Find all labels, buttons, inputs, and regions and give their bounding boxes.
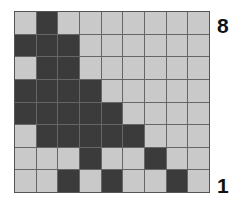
board-cell[interactable] [15, 148, 36, 170]
board-cell[interactable] [58, 12, 79, 34]
board-cell[interactable] [102, 103, 123, 125]
board-cell[interactable] [145, 148, 166, 170]
board-cell[interactable] [145, 170, 166, 192]
board-cell[interactable] [58, 80, 79, 102]
board-cell[interactable] [188, 12, 209, 34]
board-cell[interactable] [102, 170, 123, 192]
board-cell[interactable] [188, 57, 209, 79]
board-cell[interactable] [102, 57, 123, 79]
board-cell[interactable] [123, 170, 144, 192]
board-cell[interactable] [167, 103, 188, 125]
board-cell[interactable] [80, 170, 101, 192]
board-cell[interactable] [188, 35, 209, 57]
board-cell[interactable] [102, 148, 123, 170]
board-cell[interactable] [145, 57, 166, 79]
board-cell[interactable] [167, 148, 188, 170]
board-cell[interactable] [80, 103, 101, 125]
board-cell[interactable] [58, 125, 79, 147]
board-cell[interactable] [102, 35, 123, 57]
board-cell[interactable] [80, 80, 101, 102]
board-cell[interactable] [167, 12, 188, 34]
board-cell[interactable] [188, 80, 209, 102]
board-cell[interactable] [15, 80, 36, 102]
row-label-bottom: 1 [217, 175, 229, 196]
board-cell[interactable] [123, 35, 144, 57]
board-cell[interactable] [37, 103, 58, 125]
board-cell[interactable] [15, 103, 36, 125]
board-cell[interactable] [37, 170, 58, 192]
board-cell[interactable] [123, 103, 144, 125]
row-label-top: 8 [217, 15, 229, 36]
board-cell[interactable] [37, 125, 58, 147]
board-cell[interactable] [15, 12, 36, 34]
board-cell[interactable] [58, 35, 79, 57]
board-cell[interactable] [145, 12, 166, 34]
game-board [14, 11, 210, 193]
board-cell[interactable] [37, 148, 58, 170]
board-cell[interactable] [15, 170, 36, 192]
board-cell[interactable] [188, 148, 209, 170]
board-cell[interactable] [15, 35, 36, 57]
board-cell[interactable] [37, 35, 58, 57]
board-cell[interactable] [123, 80, 144, 102]
board-cell[interactable] [145, 35, 166, 57]
board-cell[interactable] [188, 125, 209, 147]
board-cell[interactable] [80, 125, 101, 147]
board-cell[interactable] [80, 148, 101, 170]
board-cell[interactable] [80, 35, 101, 57]
board-cell[interactable] [167, 170, 188, 192]
board-cell[interactable] [188, 103, 209, 125]
board-cell[interactable] [167, 125, 188, 147]
board-cell[interactable] [167, 35, 188, 57]
board-cell[interactable] [80, 57, 101, 79]
board-cell[interactable] [37, 12, 58, 34]
board-cell[interactable] [145, 125, 166, 147]
board-cell[interactable] [123, 57, 144, 79]
board-cell[interactable] [58, 57, 79, 79]
board-cell[interactable] [37, 80, 58, 102]
board-cell[interactable] [15, 125, 36, 147]
board-cell[interactable] [123, 148, 144, 170]
board-cell[interactable] [123, 125, 144, 147]
board-cell[interactable] [167, 80, 188, 102]
board-cell[interactable] [37, 57, 58, 79]
board-cell[interactable] [188, 170, 209, 192]
board-cell[interactable] [145, 80, 166, 102]
board-cell[interactable] [167, 57, 188, 79]
board-cell[interactable] [102, 125, 123, 147]
board-cell[interactable] [102, 80, 123, 102]
board-cell[interactable] [145, 103, 166, 125]
board-cell[interactable] [58, 148, 79, 170]
board-cell[interactable] [102, 12, 123, 34]
board-cell[interactable] [123, 12, 144, 34]
board-cell[interactable] [58, 170, 79, 192]
board-cell[interactable] [58, 103, 79, 125]
board-cell[interactable] [80, 12, 101, 34]
board-cell[interactable] [15, 57, 36, 79]
